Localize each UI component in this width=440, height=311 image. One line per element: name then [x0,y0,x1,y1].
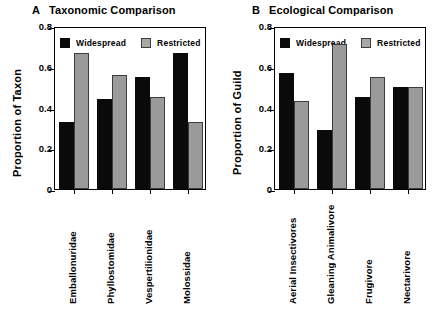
y-axis-tick-label: 0.2 [39,143,52,154]
bar-widespread [317,130,332,189]
panel-a-x-category-labels: EmballonuridaePhyllostomidaeVespertilion… [54,196,206,306]
panel-b-title-text: Ecological Comparison [269,4,393,16]
x-axis-category-label: Vespertilionidae [143,196,154,304]
panel-b-bars [275,28,425,189]
bar-widespread [135,77,150,189]
figure-root: ATaxonomic Comparison Proportion of Taxo… [0,0,440,311]
bar-restricted [150,97,165,189]
x-axis-tick-mark [294,189,295,194]
panel-ecological-comparison: BEcological Comparison Proportion of Gui… [220,0,440,311]
bar-widespread [59,122,74,189]
panel-a-plot-area: Widespread Restricted 00.20.40.60.8 [54,27,206,190]
x-axis-category-label: Frugivore [363,196,374,304]
panel-b-y-axis-label: Proportion of Guild [228,58,246,188]
bar-restricted [74,53,89,190]
y-axis-tick-label: 0.4 [259,103,272,114]
panel-a-bars [55,28,205,189]
y-axis-tick-label: 0.6 [259,62,272,73]
bar-widespread [355,97,370,189]
x-axis-category-label: Nectarivore [401,196,412,304]
y-axis-tick-label: 0.4 [39,103,52,114]
y-axis-tick-label: 0.8 [259,21,272,32]
panel-b-title: BEcological Comparison [252,4,393,16]
bar-widespread [173,53,188,190]
panel-b-letter: B [252,4,260,16]
bar-widespread [279,73,294,189]
bar-widespread [97,99,112,189]
bar-restricted [294,101,309,189]
panel-b-plot-area: Widespread Restricted 00.20.40.60.8 [274,27,426,190]
x-axis-category-label: Phyllostomidae [105,196,116,304]
x-axis-category-label: Emballonuridae [67,196,78,304]
panel-a-y-axis-label: Proportion of Taxon [8,58,26,188]
x-axis-category-label: Aerial Insectivores [287,196,298,304]
bar-widespread [393,87,408,189]
x-axis-tick-mark [370,189,371,194]
y-axis-tick-label: 0 [267,184,272,195]
y-axis-tick-label: 0.8 [39,21,52,32]
x-axis-category-label: Molossidae [181,196,192,304]
panel-taxonomic-comparison: ATaxonomic Comparison Proportion of Taxo… [0,0,220,311]
bar-restricted [188,122,203,189]
panel-a-title-text: Taxonomic Comparison [49,4,175,16]
x-axis-tick-mark [188,189,189,194]
x-axis-tick-mark [112,189,113,194]
y-axis-tick-label: 0.2 [259,143,272,154]
x-axis-category-label: Gleaning Animalivore [325,196,336,304]
panel-b-x-category-labels: Aerial InsectivoresGleaning AnimalivoreF… [274,196,426,306]
panel-a-letter: A [32,4,40,16]
panel-a-plot-inner: Widespread Restricted 00.20.40.60.8 [55,28,205,189]
bar-restricted [370,77,385,189]
bar-restricted [408,87,423,189]
y-axis-tick-label: 0 [47,184,52,195]
y-axis-tick-label: 0.6 [39,62,52,73]
bar-restricted [332,44,347,189]
panel-b-plot-inner: Widespread Restricted 00.20.40.60.8 [275,28,425,189]
x-axis-tick-mark [408,189,409,194]
x-axis-tick-mark [150,189,151,194]
panel-a-title: ATaxonomic Comparison [32,4,176,16]
bar-restricted [112,75,127,189]
x-axis-tick-mark [74,189,75,194]
x-axis-tick-mark [332,189,333,194]
